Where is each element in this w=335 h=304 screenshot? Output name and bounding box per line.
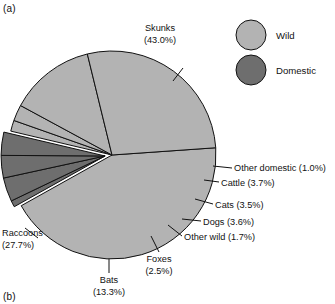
slice-label-cattle: Cattle (3.7%) <box>221 178 275 188</box>
figure-panel-a: (a) (b) Skunks (43.0%) <box>0 0 335 304</box>
slice-label-cats: Cats (3.5%) <box>215 200 264 210</box>
slice-label-bats-pct: (13.3%) <box>93 287 125 297</box>
pie-chart: Skunks (43.0%) Other domestic (1.0%) Cat… <box>0 0 335 304</box>
slice-label-raccoons: Raccoons <box>2 228 43 238</box>
legend: Wild Domestic <box>236 20 316 85</box>
legend-swatch-domestic <box>236 55 266 85</box>
slice-label-foxes: Foxes <box>146 254 171 264</box>
slice-label-skunks-pct: (43.0%) <box>144 35 176 45</box>
slice-label-other-wild: Other wild (1.7%) <box>184 232 255 242</box>
slice-label-raccoons-pct: (27.7%) <box>2 240 34 250</box>
slice-label-skunks: Skunks <box>145 23 176 33</box>
slice-label-foxes-pct: (2.5%) <box>145 266 172 276</box>
legend-label-wild: Wild <box>276 30 295 41</box>
slice-label-bats: Bats <box>100 275 119 285</box>
slice-label-other-domestic: Other domestic (1.0%) <box>234 163 326 173</box>
slice-label-dogs: Dogs (3.6%) <box>203 217 254 227</box>
legend-swatch-wild <box>236 20 266 50</box>
legend-label-domestic: Domestic <box>276 65 316 76</box>
